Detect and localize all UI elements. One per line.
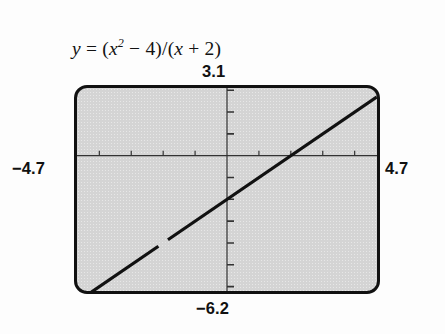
equation-open-paren: (	[102, 38, 109, 59]
window-ymin-label: −6.2	[196, 299, 229, 318]
equation-equals-sign: =	[86, 38, 97, 59]
window-xmin-label: −4.7	[12, 159, 45, 178]
window-ymax-label: 3.1	[202, 62, 225, 81]
calculator-graph-figure: y = (x2 − 4)/(x + 2) 3.1 −4.7 4.7 −6.2	[0, 0, 445, 334]
axes-group	[77, 88, 377, 291]
equation-title: y = (x2 − 4)/(x + 2)	[72, 36, 221, 60]
equation-x-1: x	[109, 38, 118, 59]
equation-lhs: y	[72, 38, 81, 59]
curve-segment	[168, 97, 377, 240]
window-xmax-label: 4.7	[385, 159, 408, 178]
curve-segment	[77, 246, 158, 291]
equation-minus-four: − 4)/(	[124, 38, 174, 59]
equation-plus-two: + 2)	[183, 38, 221, 59]
equation-x-2: x	[174, 38, 183, 59]
screen-bezel	[74, 85, 380, 294]
calculator-screen	[74, 85, 380, 294]
plot-area	[77, 88, 377, 291]
